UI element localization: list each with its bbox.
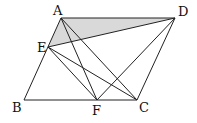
point-label-e: E — [37, 40, 47, 55]
point-label-b: B — [12, 100, 22, 115]
geometry-diagram: ADEBFC — [0, 0, 197, 123]
point-label-c: C — [139, 100, 149, 115]
segment-ab — [24, 18, 61, 100]
point-label-d: D — [178, 4, 188, 19]
point-label-f: F — [92, 103, 101, 118]
segment-ec — [48, 47, 137, 100]
point-label-a: A — [52, 3, 63, 18]
segment-ef — [48, 47, 97, 100]
segment-cd — [137, 18, 175, 100]
parallelogram-figure: ADEBFC — [0, 0, 197, 123]
